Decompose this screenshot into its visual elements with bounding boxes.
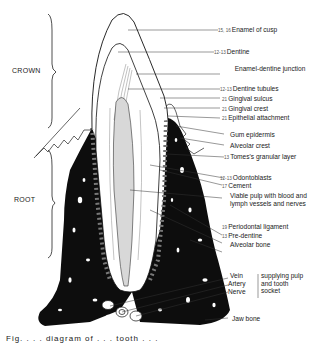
label-gingival-sulcus: 21Gingival sulcus xyxy=(222,95,272,104)
label-supplying-note: supplying pulp and tooth socket xyxy=(261,272,307,295)
label-pre-dentine: 13Pre-dentine xyxy=(222,232,262,241)
label-epithelial-attachment: 21Epithelial attachment xyxy=(222,114,302,123)
label-nerve: Nerve xyxy=(228,288,246,296)
label-viable-pulp: Viable pulp with blood and lymph vessels… xyxy=(230,192,308,207)
crown-brace xyxy=(48,14,56,128)
label-jaw-bone: Jaw bone xyxy=(232,315,260,323)
label-artery: Artery xyxy=(228,280,246,288)
label-gum-epidermis: Gum epidermis xyxy=(230,131,275,139)
label-enamel-dentine-junction: Enamel-dentine junction xyxy=(232,65,308,73)
label-periodontal-ligament: 19Periodontal ligament xyxy=(222,223,288,232)
label-dentine-tubules: 12-13Dentine tubules xyxy=(220,85,279,94)
label-cement: 17Cement xyxy=(222,182,251,191)
label-alveolar-bone: Alveolar bone xyxy=(230,241,270,249)
label-enamel-of-cusp: 15, 16Enamel of cusp xyxy=(218,26,277,35)
figure-caption-cropped: Fig. . . . diagram of . . . tooth . . . xyxy=(6,334,158,343)
label-alveolar-crest: Alveolar crest xyxy=(230,142,270,150)
root-brace xyxy=(48,150,55,258)
crown-label: CROWN xyxy=(12,67,41,74)
label-dentine: 12-13Dentine xyxy=(214,48,249,57)
label-gingival-crest: 21Gingival crest xyxy=(222,105,268,114)
label-vein: Vein xyxy=(230,272,243,280)
root-label: ROOT xyxy=(14,196,35,203)
label-tomes-granular-layer: 13Tomes's granular layer xyxy=(224,153,306,162)
